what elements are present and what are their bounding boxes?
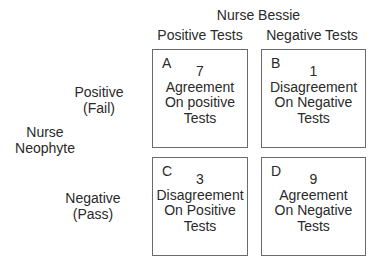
cell-a-count: 7	[153, 64, 247, 80]
cell-a-line1: Agreement	[153, 80, 247, 96]
row-header-negative-line2: (Pass)	[58, 206, 128, 222]
cell-a: A 7 Agreement On positive Tests	[152, 49, 248, 148]
cell-b-body: 1 Disagreement On Negative Tests	[262, 64, 365, 126]
cell-c-line2: On Positive	[153, 203, 247, 219]
row-header-positive-line2: (Fail)	[64, 100, 134, 116]
row-group-title-line1: Nurse	[0, 124, 90, 140]
cell-b-line2: On Negative	[262, 95, 365, 111]
cell-a-line3: Tests	[153, 111, 247, 127]
column-group-title: Nurse Bessie	[152, 7, 365, 23]
cell-d-line2: On Negative	[262, 203, 365, 219]
cell-c-count: 3	[153, 172, 247, 188]
cell-b-line1: Disagreement	[262, 80, 365, 96]
cell-c-line1: Disagreement	[153, 188, 247, 204]
cell-d-line3: Tests	[262, 219, 365, 235]
row-header-positive-line1: Positive	[64, 84, 134, 100]
cell-d: D 9 Agreement On Negative Tests	[261, 157, 366, 256]
column-header-positive-tests: Positive Tests	[140, 27, 260, 43]
cell-d-count: 9	[262, 172, 365, 188]
cell-b-line3: Tests	[262, 111, 365, 127]
cell-b-count: 1	[262, 64, 365, 80]
cell-a-line2: On positive	[153, 95, 247, 111]
cell-c: C 3 Disagreement On Positive Tests	[152, 157, 248, 256]
row-group-title-line2: Neophyte	[0, 140, 90, 156]
cell-d-body: 9 Agreement On Negative Tests	[262, 172, 365, 234]
cell-c-line3: Tests	[153, 219, 247, 235]
cell-a-body: 7 Agreement On positive Tests	[153, 64, 247, 126]
cell-c-body: 3 Disagreement On Positive Tests	[153, 172, 247, 234]
column-header-negative-tests: Negative Tests	[252, 27, 371, 43]
row-header-positive: Positive (Fail)	[64, 84, 134, 116]
row-group-title: Nurse Neophyte	[0, 124, 90, 156]
cell-b: B 1 Disagreement On Negative Tests	[261, 49, 366, 148]
row-header-negative: Negative (Pass)	[58, 190, 128, 222]
cell-d-line1: Agreement	[262, 188, 365, 204]
row-header-negative-line1: Negative	[58, 190, 128, 206]
